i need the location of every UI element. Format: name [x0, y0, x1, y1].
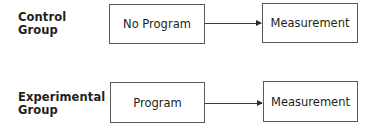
- experimental-group-label-line2: Group: [18, 104, 105, 117]
- control-measurement-label: Measurement: [271, 16, 350, 30]
- program-label: Program: [133, 96, 182, 110]
- control-arrow: [205, 23, 261, 24]
- experimental-group-label: Experimental Group: [18, 91, 105, 117]
- no-program-box: No Program: [109, 4, 205, 44]
- program-box: Program: [110, 82, 205, 123]
- control-measurement-box: Measurement: [262, 3, 358, 43]
- experimental-measurement-label: Measurement: [271, 95, 350, 109]
- control-group-label: Control Group: [18, 11, 66, 37]
- experimental-measurement-box: Measurement: [263, 81, 358, 122]
- control-group-label-line2: Group: [18, 24, 66, 37]
- no-program-label: No Program: [123, 17, 191, 31]
- experimental-arrow: [205, 103, 262, 104]
